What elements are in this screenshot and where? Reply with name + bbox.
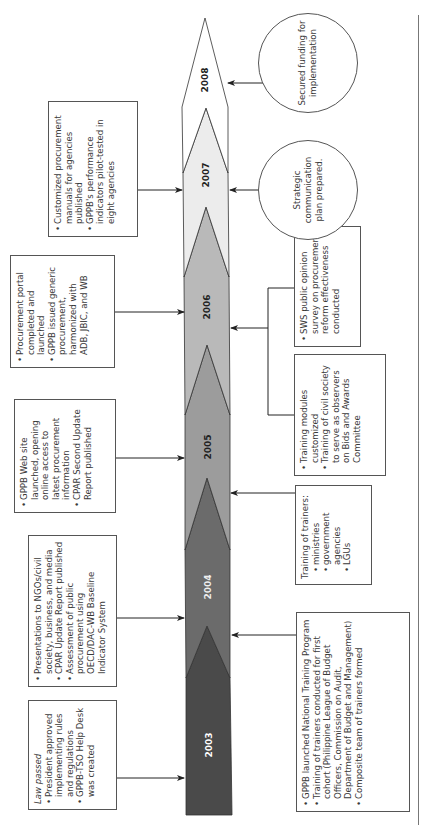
list-item: GPPB Web site launched, opening online a… — [19, 405, 72, 507]
list-item: GPPB issued generic procurement, harmoni… — [47, 261, 89, 362]
list-item: LGUs — [342, 491, 353, 579]
milestone-circle-2007: Strategic communication plan prepared. — [258, 140, 358, 240]
year-label-2005: 2005 — [203, 434, 213, 459]
milestone-box-2003-above: Law passed President approved implementi… — [28, 700, 117, 810]
list-item: GPPB-TSO Help Desk was created — [75, 706, 96, 804]
list-item: CPAR Update Report published — [54, 541, 65, 681]
milestone-box-2005-above: GPPB Web site launched, opening online a… — [14, 399, 116, 513]
list-item: GPPB's performance indicators pilot-test… — [85, 107, 117, 231]
year-label-2004: 2004 — [203, 574, 213, 599]
list-item: Training of trainers conducted for first… — [312, 618, 354, 806]
list-item: President approved implementing rules an… — [44, 706, 76, 804]
milestone-box-2007-above: Customized procurement manuals for agenc… — [48, 101, 138, 237]
list-item: CPAR Second Update Report published — [72, 405, 93, 507]
list-item: Presentations to NGOs/civil society, bus… — [33, 541, 54, 681]
year-label-2003: 2003 — [204, 732, 214, 757]
circle-text: Strategic communication plan prepared. — [292, 147, 325, 233]
year-label-2007: 2007 — [201, 162, 211, 187]
year-label-2008: 2008 — [200, 67, 210, 92]
list-item: government agencies — [321, 491, 342, 579]
page-edge-line — [418, 15, 419, 825]
list-item: GPPB launched National Training Program — [301, 618, 312, 806]
list-item: Training modules customized — [299, 360, 320, 470]
procurement-reform-timeline: 2003 2004 2005 2006 2007 2008 Law passed… — [0, 0, 428, 825]
milestone-circle-2008: Secured funding for implementation — [258, 13, 358, 113]
milestone-box-2004-below: Training of trainers: ministries governm… — [295, 485, 372, 585]
list-item: ministries — [311, 491, 322, 579]
box-intro: Law passed — [33, 706, 44, 804]
milestone-box-2003-below: GPPB launched National Training Program … — [296, 612, 410, 812]
list-item: SWS public opinion survey on procurement… — [299, 232, 341, 341]
milestone-box-2006-above: Procurement portal completed and launche… — [10, 255, 115, 368]
year-label-2006: 2006 — [202, 294, 212, 319]
list-item: Procurement portal completed and launche… — [15, 261, 47, 362]
milestone-box-2005-below: Training modules customized Training of … — [294, 354, 386, 476]
milestone-box-2004-above: Presentations to NGOs/civil society, bus… — [28, 535, 117, 687]
list-item: Customized procurement manuals for agenc… — [53, 107, 85, 231]
milestone-box-2006-below: SWS public opinion survey on procurement… — [294, 226, 361, 347]
list-item: Composite team of trainers formed — [354, 618, 365, 806]
circle-text: Secured funding for implementation — [297, 20, 319, 106]
list-item: Assessment of public procurement using O… — [65, 541, 107, 681]
list-item: Training of civil society to serve as ob… — [320, 360, 362, 470]
box-intro: Training of trainers: — [300, 491, 311, 579]
